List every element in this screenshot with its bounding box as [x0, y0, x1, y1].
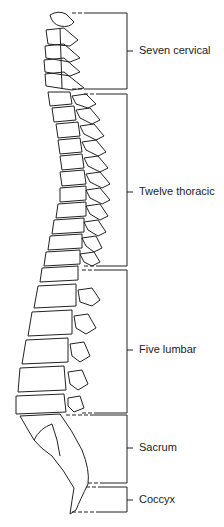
bracket-sacrum — [66, 415, 133, 483]
bracket-lumbar — [82, 270, 133, 413]
label-lumbar: Five lumbar — [139, 343, 196, 355]
label-sacrum: Sacrum — [139, 441, 177, 453]
label-cervical: Seven cervical — [139, 44, 211, 56]
label-coccyx: Coccyx — [139, 493, 175, 505]
bracket-coccyx — [72, 487, 133, 512]
bracket-thoracic — [84, 94, 133, 266]
bracket-cervical — [72, 13, 133, 89]
spine-illustration — [0, 0, 224, 527]
label-thoracic: Twelve thoracic — [139, 185, 215, 197]
